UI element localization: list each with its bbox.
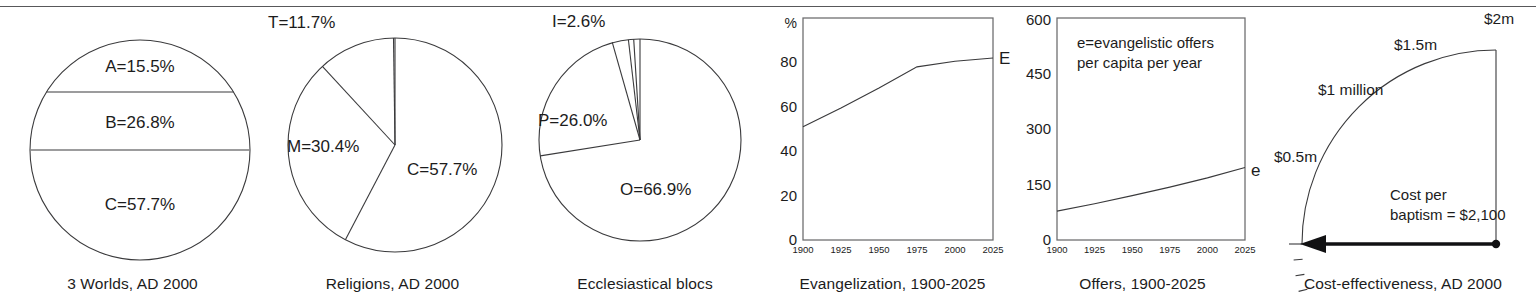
annotation-line-2: per capita per year <box>1077 54 1202 71</box>
slice-label-c: C=57.7% <box>105 195 175 214</box>
panel-three-worlds: A=15.5% B=26.8% C=57.7% 3 Worlds, AD 200… <box>0 0 265 302</box>
y-tick-label: 40 <box>780 142 797 159</box>
x-axis-tick-labels: 1900 1925 1950 1975 2000 2025 <box>1046 244 1255 255</box>
caption-ecclesiastical-blocs: Ecclesiastical blocs <box>520 275 770 293</box>
y-tick-label: 60 <box>780 98 797 115</box>
series-line-e <box>1057 167 1245 211</box>
value-line-2: baptism = $2,100 <box>1390 206 1506 223</box>
plot-frame <box>1057 18 1245 240</box>
x-tick-label: 1950 <box>868 244 889 255</box>
gauge-label-2m: $2m <box>1484 10 1514 27</box>
divider-p-o <box>540 140 640 156</box>
y-tick-label: 20 <box>780 187 797 204</box>
y-tick-label: 80 <box>780 53 797 70</box>
gauge-label-1-5m: $1.5m <box>1394 36 1437 53</box>
gauge-tickmarks <box>1289 244 1496 302</box>
divider-i-p <box>612 42 640 140</box>
chart-religions: T=11.7% M=30.4% C=57.7% <box>265 0 520 272</box>
slice-label-o: O=66.9% <box>620 180 691 199</box>
series-tag-e: E <box>999 49 1010 68</box>
divider-m-t <box>322 66 395 145</box>
panel-cost-effectiveness: $0.5m $1 million $1.5m $2m Cost per bapt… <box>1270 0 1536 302</box>
y-tick-label: 450 <box>1026 65 1051 82</box>
slice-label-p: P=26.0% <box>538 111 607 130</box>
gauge-value-readout: Cost per baptism = $2,100 <box>1390 186 1506 223</box>
panel-ecclesiastical-blocs: I=2.6% P=26.0% O=66.9% Ecclesiastical bl… <box>520 0 770 302</box>
panel-evangelization: % 0 20 40 60 80 1900 1925 1950 1975 2000… <box>770 0 1015 302</box>
gauge-scale-labels: $0.5m $1 million $1.5m $2m <box>1274 10 1514 165</box>
x-tick-label: 2000 <box>944 244 965 255</box>
x-tick-label: 1950 <box>1122 244 1143 255</box>
x-tick-label: 1900 <box>1046 244 1067 255</box>
caption-offers: Offers, 1900-2025 <box>1015 275 1270 293</box>
caption-evangelization: Evangelization, 1900-2025 <box>770 275 1015 293</box>
caption-three-worlds: 3 Worlds, AD 2000 <box>0 275 265 293</box>
needle-pivot <box>1492 240 1500 248</box>
slice-label-m: M=30.4% <box>287 137 359 156</box>
series-line-e <box>803 58 993 127</box>
value-line-1: Cost per <box>1390 186 1447 203</box>
x-tick-label: 2025 <box>982 244 1003 255</box>
figure-root: A=15.5% B=26.8% C=57.7% 3 Worlds, AD 200… <box>0 0 1536 302</box>
slice-label-b: B=26.8% <box>105 113 174 132</box>
x-tick-label: 1900 <box>792 244 813 255</box>
gauge-label-0-5m: $0.5m <box>1274 148 1317 165</box>
slice-label-c: C=57.7% <box>407 160 477 179</box>
x-tick-label: 1975 <box>1159 244 1180 255</box>
plot-annotation: e=evangelistic offers per capita per yea… <box>1077 34 1214 71</box>
gauge-tick <box>1294 259 1303 260</box>
divider-c-m <box>345 145 395 240</box>
slice-label-i: I=2.6% <box>552 12 605 31</box>
y-axis-unit-label: % <box>785 15 797 31</box>
caption-cost-effectiveness: Cost-effectiveness, AD 2000 <box>1270 275 1536 293</box>
y-tick-label: 300 <box>1026 120 1051 137</box>
y-axis-tick-labels: 0 20 40 60 80 <box>780 53 797 248</box>
x-tick-label: 2000 <box>1197 244 1218 255</box>
x-axis-tick-labels: 1900 1925 1950 1975 2000 2025 <box>792 244 1003 255</box>
gauge-label-1m: $1 million <box>1318 81 1383 98</box>
x-tick-label: 2025 <box>1234 244 1255 255</box>
y-tick-label: 150 <box>1026 176 1051 193</box>
x-tick-label: 1975 <box>906 244 927 255</box>
y-axis-tick-labels: 0 150 300 450 600 <box>1026 11 1051 248</box>
y-tick-label: 600 <box>1026 11 1051 28</box>
panel-offers: 0 150 300 450 600 1900 1925 1950 1975 20… <box>1015 0 1270 302</box>
plot-frame <box>803 18 993 240</box>
chart-evangelization: % 0 20 40 60 80 1900 1925 1950 1975 2000… <box>770 0 1015 272</box>
chart-offers: 0 150 300 450 600 1900 1925 1950 1975 20… <box>1015 0 1270 272</box>
slice-label-a: A=15.5% <box>105 57 174 76</box>
x-tick-label: 1925 <box>1084 244 1105 255</box>
series-tag-e: e <box>1251 161 1260 180</box>
caption-religions: Religions, AD 2000 <box>265 275 520 293</box>
gauge-needle <box>1300 235 1500 253</box>
needle-arrowhead <box>1300 235 1326 253</box>
annotation-line-1: e=evangelistic offers <box>1077 34 1214 51</box>
panel-religions: T=11.7% M=30.4% C=57.7% Religions, AD 20… <box>265 0 520 302</box>
pie-slice-dividers <box>540 39 640 156</box>
chart-ecclesiastical-blocs: I=2.6% P=26.0% O=66.9% <box>520 0 770 272</box>
chart-cost-effectiveness: $0.5m $1 million $1.5m $2m Cost per bapt… <box>1270 0 1536 272</box>
chart-three-worlds: A=15.5% B=26.8% C=57.7% <box>0 0 265 272</box>
slice-label-t: T=11.7% <box>268 13 335 32</box>
x-tick-label: 1925 <box>830 244 851 255</box>
